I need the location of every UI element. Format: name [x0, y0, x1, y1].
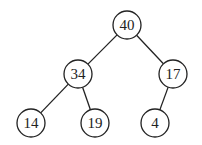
node-label: 34 [71, 66, 87, 82]
node-label: 19 [88, 115, 103, 131]
edge-40-17 [137, 35, 164, 64]
edge-34-14 [41, 84, 69, 113]
binary-tree-diagram: 40341714194 [0, 0, 202, 145]
tree-node-19: 19 [81, 109, 109, 137]
edge-17-4 [160, 87, 168, 110]
node-label: 4 [151, 115, 159, 131]
tree-node-40: 40 [113, 11, 141, 39]
tree-node-34: 34 [64, 60, 92, 88]
tree-node-14: 14 [17, 109, 45, 137]
edge-34-19 [83, 87, 91, 110]
edge-40-34 [88, 35, 117, 64]
tree-nodes: 40341714194 [17, 11, 187, 137]
node-label: 17 [166, 66, 182, 82]
tree-node-4: 4 [141, 109, 169, 137]
tree-node-17: 17 [159, 60, 187, 88]
tree-edges [41, 35, 168, 113]
node-label: 40 [120, 17, 135, 33]
node-label: 14 [24, 115, 40, 131]
